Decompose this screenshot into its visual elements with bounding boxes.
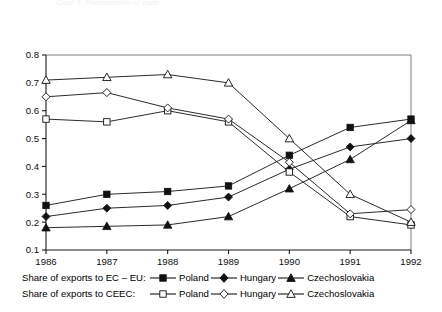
legend-entry-hungary-ceec: Hungary bbox=[211, 288, 278, 300]
series-line-0 bbox=[46, 119, 411, 205]
cropped-caption-text: Chart 3. Reorientation of trade bbox=[56, 0, 442, 6]
x-tick-label: 1986 bbox=[35, 256, 56, 267]
legend-row-ceec: Share of exports to CEEC: Poland Hungary… bbox=[22, 286, 442, 301]
filled-diamond-marker bbox=[225, 193, 233, 201]
legend-entry-poland-ec: Poland bbox=[150, 272, 211, 284]
filled-diamond-marker bbox=[42, 213, 50, 221]
open-triangle-marker bbox=[163, 70, 171, 77]
legend-label: Poland bbox=[179, 288, 209, 299]
y-tick-label: 0.4 bbox=[26, 161, 40, 172]
x-tick-label: 1992 bbox=[400, 256, 421, 267]
x-tick-label: 1989 bbox=[218, 256, 239, 267]
filled-triangle-icon bbox=[278, 272, 304, 284]
open-square-marker bbox=[104, 119, 110, 125]
filled-square-marker bbox=[164, 188, 170, 194]
open-diamond-icon bbox=[211, 288, 237, 300]
y-tick-label: 0.1 bbox=[26, 244, 39, 255]
series-line-1 bbox=[46, 139, 411, 217]
filled-diamond-marker bbox=[346, 143, 354, 151]
filled-triangle-marker bbox=[346, 155, 354, 162]
filled-diamond-marker bbox=[103, 204, 111, 212]
open-triangle-icon bbox=[278, 288, 304, 300]
cropped-caption-strip: Chart 3. Reorientation of trade bbox=[0, 0, 442, 9]
filled-square-marker bbox=[104, 191, 110, 197]
legend-entry-hungary-ec: Hungary bbox=[211, 272, 278, 284]
legend-entry-poland-ceec: Poland bbox=[150, 288, 211, 300]
open-square-icon bbox=[150, 288, 176, 300]
filled-square-marker bbox=[286, 152, 292, 158]
x-tick-label: 1987 bbox=[96, 256, 117, 267]
y-tick-label: 0.2 bbox=[26, 217, 39, 228]
legend-label: Hungary bbox=[240, 272, 276, 283]
open-diamond-marker bbox=[42, 93, 50, 101]
legend-entry-czechoslovakia-ec: Czechoslovakia bbox=[278, 272, 376, 284]
x-tick-label: 1991 bbox=[339, 256, 360, 267]
legend-label: Czechoslovakia bbox=[307, 288, 374, 299]
legend-row-title: Share of exports to EC – EU: bbox=[22, 272, 150, 283]
legend-label: Poland bbox=[179, 272, 209, 283]
legend-row-ec-eu: Share of exports to EC – EU: Poland Hung… bbox=[22, 270, 442, 285]
y-tick-label: 0.6 bbox=[26, 105, 39, 116]
x-tick-label: 1990 bbox=[279, 256, 300, 267]
y-tick-label: 0.3 bbox=[26, 189, 39, 200]
open-diamond-marker bbox=[407, 206, 415, 214]
legend-entry-czechoslovakia-ceec: Czechoslovakia bbox=[278, 288, 376, 300]
line-chart-plot: 0.10.20.30.40.50.60.70.81986198719881989… bbox=[0, 0, 442, 268]
series-line-3 bbox=[46, 111, 411, 225]
open-square-marker bbox=[43, 116, 49, 122]
filled-diamond-marker bbox=[407, 135, 415, 143]
y-tick-label: 0.5 bbox=[26, 133, 39, 144]
filled-triangle-marker bbox=[285, 185, 293, 192]
filled-square-marker bbox=[347, 124, 353, 130]
filled-diamond-icon bbox=[211, 272, 237, 284]
filled-diamond-marker bbox=[164, 201, 172, 209]
filled-triangle-marker bbox=[224, 212, 232, 219]
filled-square-marker bbox=[225, 183, 231, 189]
filled-square-marker bbox=[43, 202, 49, 208]
y-tick-label: 0.8 bbox=[26, 49, 39, 60]
legend-label: Czechoslovakia bbox=[307, 272, 374, 283]
legend-label: Hungary bbox=[240, 288, 276, 299]
open-diamond-marker bbox=[103, 89, 111, 97]
y-tick-label: 0.7 bbox=[26, 77, 39, 88]
chart-legend: Share of exports to EC – EU: Poland Hung… bbox=[0, 268, 442, 312]
legend-row-title: Share of exports to CEEC: bbox=[22, 288, 150, 299]
filled-square-icon bbox=[150, 272, 176, 284]
open-square-marker bbox=[286, 169, 292, 175]
chart-container: Chart 3. Reorientation of trade 0.10.20.… bbox=[0, 0, 442, 312]
x-tick-label: 1988 bbox=[157, 256, 178, 267]
